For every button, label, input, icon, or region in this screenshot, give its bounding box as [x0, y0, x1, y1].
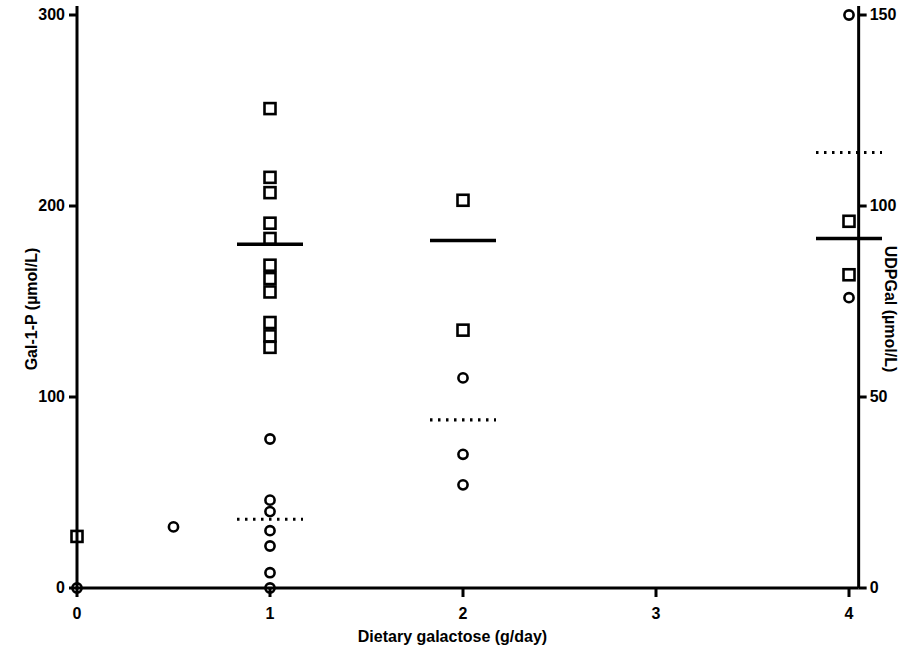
- scatter-plot-figure: Gal-1-P (µmol/L) UDPGal (µmol/L) Dietary…: [0, 0, 905, 652]
- x-axis-tick-label: 4: [845, 605, 854, 623]
- y-axis-right-title: UDPGal (µmol/L): [881, 199, 899, 419]
- data-point-square: [265, 218, 276, 229]
- x-axis-tick-label: 2: [459, 605, 468, 623]
- data-point-circle: [265, 507, 274, 516]
- y-axis-right-tick-label: 100: [870, 197, 897, 215]
- data-point-circle: [265, 526, 274, 535]
- data-point-circle: [458, 480, 467, 489]
- plot-canvas: [0, 0, 905, 652]
- data-point-square: [265, 330, 276, 341]
- y-axis-left-title: Gal-1-P (µmol/L): [23, 199, 41, 419]
- axis-lines: [69, 6, 867, 597]
- data-point-square: [265, 103, 276, 114]
- data-point-square: [844, 269, 855, 280]
- data-point-square: [265, 187, 276, 198]
- data-point-square: [265, 342, 276, 353]
- data-point-square: [458, 325, 469, 336]
- x-axis-tick-label: 3: [652, 605, 661, 623]
- data-point-square: [265, 260, 276, 271]
- data-point-square: [844, 216, 855, 227]
- data-point-square: [265, 286, 276, 297]
- y-axis-left-tick-label: 0: [56, 579, 65, 597]
- data-point-square: [458, 195, 469, 206]
- data-point-circle: [265, 496, 274, 505]
- y-axis-left-tick-label: 100: [38, 388, 65, 406]
- y-axis-right-tick-label: 150: [870, 6, 897, 24]
- data-point-square: [265, 273, 276, 284]
- data-point-square: [265, 172, 276, 183]
- data-point-square: [265, 233, 276, 244]
- y-axis-right-tick-label: 50: [870, 388, 888, 406]
- data-point-circle: [265, 568, 274, 577]
- y-axis-left-tick-label: 200: [38, 197, 65, 215]
- data-point-circle: [458, 450, 467, 459]
- mean-lines: [237, 153, 882, 520]
- data-point-circle: [458, 373, 467, 382]
- data-point-square: [265, 317, 276, 328]
- x-axis-tick-label: 0: [73, 605, 82, 623]
- y-axis-right-tick-label: 0: [870, 579, 879, 597]
- y-axis-left-tick-label: 300: [38, 6, 65, 24]
- x-axis-tick-label: 1: [266, 605, 275, 623]
- x-axis-title: Dietary galactose (g/day): [0, 628, 905, 646]
- data-point-circle: [265, 541, 274, 550]
- data-point-circle: [265, 434, 274, 443]
- data-point-circle: [844, 10, 853, 19]
- data-markers: [72, 10, 855, 592]
- data-point-circle: [169, 522, 178, 531]
- data-point-circle: [844, 293, 853, 302]
